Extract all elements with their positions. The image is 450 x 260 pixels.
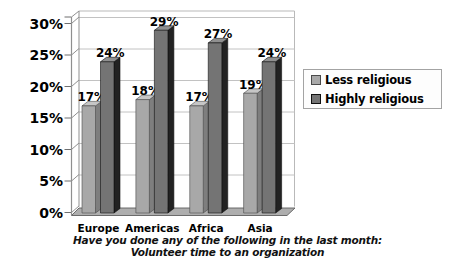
wall-slant-10% — [72, 143, 80, 150]
y-axis-label-0%: 0% — [39, 205, 63, 221]
data-label-africa-highly-religious: 27% — [204, 27, 233, 41]
x-axis-label-africa: Africa — [189, 222, 224, 234]
y-axis-label-10%: 10% — [29, 142, 63, 158]
wall-slant-25% — [72, 49, 80, 56]
y-axis-label-5%: 5% — [39, 173, 63, 189]
bar-chart-canvas: 0%5%10%15%20%25%30%17%24%Europe18%29%Ame… — [0, 0, 450, 260]
wall-slant-20% — [72, 80, 80, 87]
bar-side-africa-highly-religious — [222, 38, 228, 213]
bar-side-europe-highly-religious — [114, 57, 120, 213]
wall-slant-30% — [72, 17, 80, 24]
x-axis-label-europe: Europe — [78, 222, 120, 234]
legend-label-less-religious: Less religious — [325, 73, 411, 87]
bar-europe-highly-religious — [101, 62, 115, 213]
bar-africa-less-religious — [190, 106, 204, 213]
wall-slant-15% — [72, 112, 80, 119]
bar-americas-highly-religious — [154, 30, 168, 213]
y-axis-label-30%: 30% — [29, 16, 63, 32]
y-axis-label-15%: 15% — [29, 110, 63, 126]
legend-swatch-less-religious-icon — [311, 75, 321, 85]
wall-slant-5% — [72, 175, 80, 182]
data-label-americas-highly-religious: 29% — [150, 15, 179, 29]
wall-slant-top — [72, 11, 80, 17]
data-label-europe-highly-religious: 24% — [96, 46, 125, 60]
bar-side-americas-highly-religious — [168, 26, 174, 213]
legend-item-less-religious: Less religious — [311, 71, 441, 88]
data-label-asia-highly-religious: 24% — [258, 46, 287, 60]
legend-item-highly-religious: Highly religious — [311, 90, 441, 107]
legend-label-highly-religious: Highly religious — [325, 92, 424, 106]
x-axis-label-americas: Americas — [125, 222, 180, 234]
chart-title: Have you done any of the following in th… — [0, 235, 450, 258]
bar-asia-highly-religious — [262, 62, 276, 213]
chart-title-line2: Volunteer time to an organization — [0, 247, 450, 259]
x-axis-label-asia: Asia — [248, 222, 273, 234]
y-axis-label-20%: 20% — [29, 79, 63, 95]
bar-side-asia-highly-religious — [276, 57, 282, 213]
y-axis-label-25%: 25% — [29, 47, 63, 63]
legend: Less religious Highly religious — [303, 69, 442, 109]
chart-title-line1: Have you done any of the following in th… — [0, 235, 450, 247]
bar-europe-less-religious — [82, 106, 96, 213]
bar-chart: 0%5%10%15%20%25%30%17%24%Europe18%29%Ame… — [0, 0, 450, 260]
bar-africa-highly-religious — [208, 43, 222, 213]
legend-swatch-highly-religious-icon — [311, 94, 321, 104]
bar-asia-less-religious — [244, 93, 258, 213]
bar-americas-less-religious — [136, 100, 150, 213]
